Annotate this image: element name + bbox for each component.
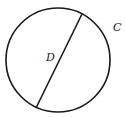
circumference-label: C <box>113 21 122 34</box>
diameter-line <box>36 14 82 108</box>
diameter-label: D <box>45 51 55 64</box>
circle-diagram: D C <box>0 0 125 117</box>
circle <box>6 8 110 112</box>
